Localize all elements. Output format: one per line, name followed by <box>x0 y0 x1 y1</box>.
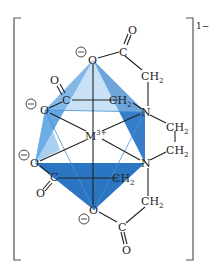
atom-c-bottom: C <box>118 221 126 234</box>
bonds <box>40 34 175 244</box>
complex-charge: 1− <box>196 21 209 31</box>
minus-circle-icon <box>26 99 36 109</box>
minus-circle-icon <box>19 150 29 160</box>
left-bracket <box>14 18 21 260</box>
atom-c-top: C <box>119 46 127 59</box>
atom-o-top: O <box>88 54 97 67</box>
atom-o-bottom-carbonyl: O <box>122 244 131 257</box>
minus-circle-icon <box>79 214 89 224</box>
atom-o-left-lower-carbonyl: O <box>36 187 45 200</box>
atom-o-left-lower: O <box>30 157 39 170</box>
atom-o-bottom: O <box>89 204 98 217</box>
atom-o-left-upper-carbonyl: O <box>50 74 59 87</box>
edta-complex-diagram: 1− <box>0 0 212 274</box>
atom-o-left-upper: O <box>40 104 49 117</box>
atom-ch2-bottom: CH2 <box>141 195 163 210</box>
right-bracket <box>186 18 193 260</box>
metal-ion: M3+ <box>85 129 107 143</box>
atom-o-top-carbonyl: O <box>128 24 137 37</box>
atom-n-upper: N <box>141 106 151 119</box>
atom-n-lower: N <box>141 157 151 170</box>
minus-circle-icon <box>76 47 86 57</box>
atom-ch2-bridge-1: CH2 <box>166 121 188 136</box>
atom-ch2-bridge-2: CH2 <box>166 144 188 159</box>
atom-c-left-upper: C <box>62 94 70 107</box>
diagram-svg: 1− <box>0 0 212 274</box>
atom-ch2-top: CH2 <box>141 70 163 85</box>
atom-c-left-lower: C <box>50 171 58 184</box>
